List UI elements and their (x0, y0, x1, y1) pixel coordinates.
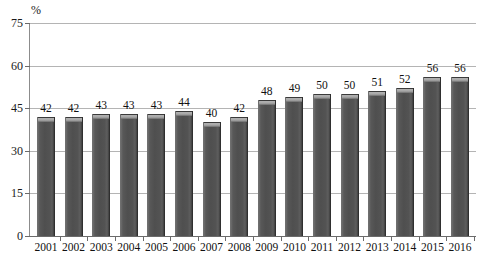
bar[interactable] (65, 117, 83, 236)
bar[interactable] (258, 100, 276, 236)
y-axis-tick-label: 15 (11, 187, 23, 199)
x-axis-tick-label: 2006 (171, 241, 197, 254)
x-axis-tick-label: 2016 (447, 241, 473, 254)
x-axis-tick-label: 2007 (199, 241, 225, 254)
bar[interactable] (147, 114, 165, 236)
bar-value-label: 43 (143, 99, 169, 111)
x-axis-tick-label: 2011 (309, 241, 335, 254)
x-axis-tick-label: 2002 (61, 241, 87, 254)
bar-value-label: 42 (33, 102, 59, 114)
x-axis-tick (474, 237, 475, 241)
bar[interactable] (37, 117, 55, 236)
bar-value-label: 51 (364, 76, 390, 88)
y-axis-tick-label: 0 (17, 230, 23, 242)
x-axis-labels: 2001200220032004200520062007200820092010… (29, 241, 476, 261)
x-axis-tick-label: 2009 (254, 241, 280, 254)
x-axis-tick-label: 2012 (337, 241, 363, 254)
bar[interactable] (120, 114, 138, 236)
x-axis-tick-label: 2014 (392, 241, 418, 254)
y-axis-tick-label: 45 (11, 102, 23, 114)
bar[interactable] (451, 77, 469, 236)
bar-value-label: 42 (226, 102, 252, 114)
y-axis-tick-label: 75 (11, 17, 23, 29)
bars-layer (29, 23, 476, 237)
x-axis-tick-label: 2013 (364, 241, 390, 254)
plot-area: 01530456075 4242434343444042484950505152… (29, 23, 476, 237)
y-axis-unit-label: % (31, 4, 41, 17)
bar-value-label: 56 (447, 62, 473, 74)
bar[interactable] (175, 111, 193, 236)
bar-value-label: 56 (419, 62, 445, 74)
bar[interactable] (341, 94, 359, 236)
y-axis-tick-label: 30 (11, 145, 23, 157)
x-axis-tick-label: 2005 (143, 241, 169, 254)
bar-value-label: 43 (88, 99, 114, 111)
bar-value-label: 44 (171, 96, 197, 108)
bar[interactable] (368, 91, 386, 236)
bar[interactable] (423, 77, 441, 236)
bar-chart: % 01530456075 42424343434440424849505051… (0, 0, 485, 270)
x-axis-tick-label: 2001 (33, 241, 59, 254)
bar-value-label: 48 (254, 85, 280, 97)
bar-value-label: 40 (199, 107, 225, 119)
x-axis-tick-label: 2010 (281, 241, 307, 254)
bar[interactable] (313, 94, 331, 236)
y-axis-tick-label: 60 (11, 60, 23, 72)
x-axis-tick-label: 2008 (226, 241, 252, 254)
bar-value-label: 50 (337, 79, 363, 91)
x-axis-tick-label: 2015 (419, 241, 445, 254)
bar-value-label: 50 (309, 79, 335, 91)
bar-value-label: 49 (281, 82, 307, 94)
x-axis-tick-label: 2003 (88, 241, 114, 254)
bar[interactable] (285, 97, 303, 236)
bar-value-label: 43 (116, 99, 142, 111)
bar[interactable] (203, 122, 221, 236)
bar[interactable] (396, 88, 414, 236)
x-axis-tick-label: 2004 (116, 241, 142, 254)
bar[interactable] (230, 117, 248, 236)
bar-value-label: 52 (392, 73, 418, 85)
bar[interactable] (92, 114, 110, 236)
bar-value-label: 42 (61, 102, 87, 114)
